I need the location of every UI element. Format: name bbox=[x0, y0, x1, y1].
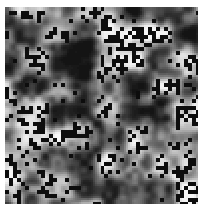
noise-texture-canvas bbox=[5, 7, 198, 204]
texture-image-frame: Grayscale speckled noise texture bbox=[0, 0, 198, 204]
